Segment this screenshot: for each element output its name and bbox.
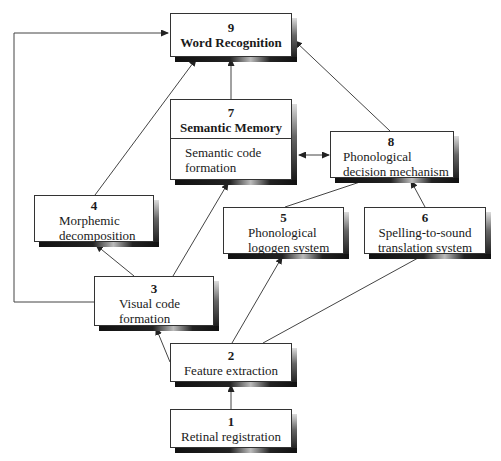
node-number: 6	[365, 210, 485, 225]
node-number: 8	[343, 134, 453, 149]
edge-2-to-3	[156, 328, 170, 362]
node-label-line-1: Phonological	[343, 149, 453, 164]
node-label-line-2: translation system	[365, 240, 485, 255]
node-number: 7	[171, 105, 291, 120]
node-label-line-1: Spelling-to-sound	[365, 225, 485, 240]
node-label-line-1: Morphemic	[59, 213, 153, 228]
node-7-semantic-memory: 7 Semantic Memory Semantic code formatio…	[170, 99, 292, 180]
node-number: 1	[171, 414, 291, 429]
node-label: Feature extraction	[171, 363, 291, 378]
node-label: Word Recognition	[171, 35, 291, 50]
node-label: Retinal registration	[171, 429, 291, 444]
edge-8-to-9	[295, 41, 390, 131]
node-label-line-1: Visual code	[119, 296, 213, 311]
edge-6-to-8	[411, 181, 425, 207]
node-8-phonological-decision: 8 Phonological decision mechanism	[330, 131, 454, 178]
node-4-morphemic-decomposition: 4 Morphemic decomposition	[34, 195, 154, 242]
node-number: 5	[248, 210, 343, 225]
node-number: 4	[59, 198, 153, 213]
node-sublabel-line-2: formation	[185, 160, 291, 175]
node-label: Semantic Memory	[171, 120, 291, 135]
node-9-word-recognition: 9 Word Recognition	[170, 13, 292, 57]
node-label-line-2: decision mechanism	[343, 164, 453, 179]
node-number: 2	[171, 348, 291, 363]
node-2-feature-extraction: 2 Feature extraction	[170, 343, 292, 382]
edge-3-to-4	[96, 245, 134, 276]
node-label-line-2: logogen system	[248, 240, 343, 255]
edge-2-to-6	[263, 258, 418, 343]
node-1-retinal-registration: 1 Retinal registration	[170, 409, 292, 448]
node-label-line-2: formation	[119, 311, 213, 326]
node-6-spelling-to-sound: 6 Spelling-to-sound translation system	[364, 207, 486, 254]
edge-3-to-9	[14, 33, 168, 302]
node-label-line-2: decomposition	[59, 228, 153, 243]
node-sublabel-line-1: Semantic code	[185, 145, 291, 160]
edge-5-to-8	[285, 182, 360, 207]
edge-3-to-7	[173, 183, 228, 276]
node-5-phonological-logogen: 5 Phonological logogen system	[223, 207, 344, 254]
edge-2-to-5	[232, 257, 282, 343]
node-sublabel-section: Semantic code formation	[171, 138, 291, 180]
node-number: 3	[119, 281, 213, 296]
node-3-visual-code-formation: 3 Visual code formation	[94, 276, 214, 326]
node-label-line-1: Phonological	[248, 225, 343, 240]
node-number: 9	[171, 20, 291, 35]
